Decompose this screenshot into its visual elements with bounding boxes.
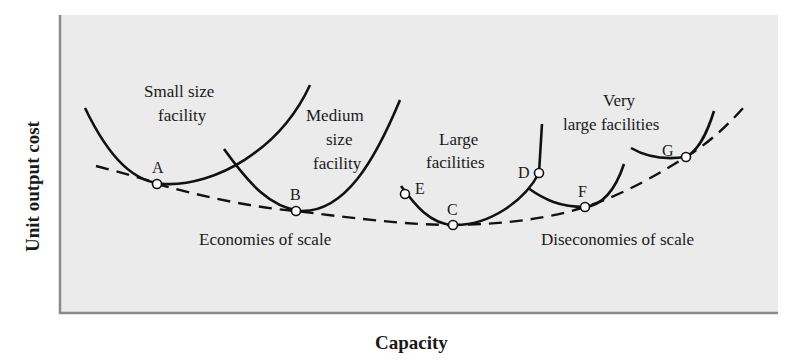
annotation-diseconomies-of-scale: Diseconomies of scale	[541, 230, 694, 249]
y-axis-title: Unit output cost	[22, 120, 43, 252]
point-d-label: D	[518, 164, 530, 181]
x-axis-title: Capacity	[375, 332, 448, 353]
label-very-large-line1: Very	[603, 91, 636, 110]
point-b-marker	[292, 207, 301, 216]
label-medium-facility-line3: facility	[313, 154, 362, 173]
point-c-marker	[449, 221, 458, 230]
label-very-large-line2: large facilities	[563, 115, 659, 134]
point-e-marker	[401, 190, 410, 199]
point-b-label: B	[290, 186, 301, 203]
point-d-marker	[535, 169, 544, 178]
diagram-canvas: A B C D E F G Small size facility Medium…	[0, 0, 791, 364]
point-e-label: E	[415, 180, 425, 197]
point-g-marker	[682, 153, 691, 162]
point-f-label: F	[578, 183, 587, 200]
point-a-marker	[153, 180, 162, 189]
point-g-label: G	[662, 142, 674, 159]
annotation-economies-of-scale: Economies of scale	[199, 230, 331, 249]
point-f-marker	[581, 203, 590, 212]
point-c-label: C	[447, 201, 458, 218]
label-medium-facility-line1: Medium	[306, 106, 364, 125]
economies-of-scale-diagram: A B C D E F G Small size facility Medium…	[0, 0, 791, 364]
label-small-facility-line2: facility	[158, 106, 207, 125]
label-large-facilities-line1: Large	[439, 130, 478, 149]
plot-area	[60, 15, 778, 313]
label-small-facility-line1: Small size	[144, 82, 214, 101]
label-large-facilities-line2: facilities	[426, 153, 485, 172]
label-medium-facility-line2: size	[326, 130, 352, 149]
point-a-label: A	[152, 159, 164, 176]
